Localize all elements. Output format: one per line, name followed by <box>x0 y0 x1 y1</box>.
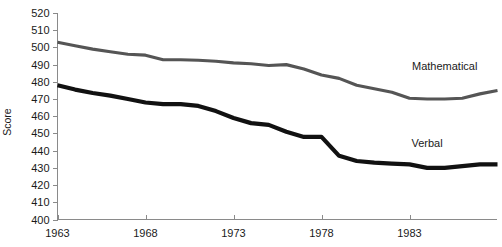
y-axis-tick-label: 490 <box>31 59 49 71</box>
x-axis-tick-label: 1963 <box>45 227 69 239</box>
x-axis-tick-label: 1968 <box>133 227 157 239</box>
x-axis-tick-label: 1973 <box>221 227 245 239</box>
x-axis-tick-group: 19631968197319781983 <box>45 215 421 239</box>
y-axis-tick-label: 410 <box>31 196 49 208</box>
y-axis-tick-label: 430 <box>31 162 49 174</box>
y-axis-tick-label: 500 <box>31 41 49 53</box>
y-axis-tick-label: 470 <box>31 93 49 105</box>
y-axis-tick-label: 420 <box>31 179 49 191</box>
sat-score-trend-chart: 400410420430440450460470480490500510520 … <box>0 0 502 247</box>
y-axis-title: Score <box>1 108 13 136</box>
series-label-verbal: Verbal <box>411 137 442 149</box>
y-axis-tick-label: 440 <box>31 145 49 157</box>
y-axis-tick-label: 520 <box>31 7 49 19</box>
y-axis-tick-group: 400410420430440450460470480490500510520 <box>31 7 57 226</box>
series-label-mathematical: Mathematical <box>412 60 477 72</box>
y-axis-tick-label: 460 <box>31 110 49 122</box>
series-label-group: MathematicalVerbal <box>411 60 477 149</box>
y-axis-tick-label: 450 <box>31 127 49 139</box>
y-axis-tick-label: 400 <box>31 214 49 226</box>
x-axis-tick-label: 1978 <box>309 227 333 239</box>
chart-canvas: 400410420430440450460470480490500510520 … <box>0 0 502 247</box>
y-axis-tick-label: 480 <box>31 76 49 88</box>
y-axis-tick-label: 510 <box>31 24 49 36</box>
x-axis-tick-label: 1983 <box>397 227 421 239</box>
